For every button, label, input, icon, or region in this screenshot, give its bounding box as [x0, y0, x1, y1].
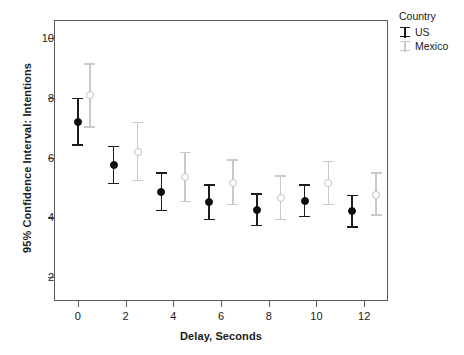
legend: Country US Mexico [399, 10, 463, 53]
x-tick-label: 12 [344, 310, 384, 322]
legend-item-us[interactable]: US [399, 25, 463, 39]
x-tick-label: 8 [249, 310, 289, 322]
x-axis-ticks: 024681012 [0, 0, 464, 355]
legend-label-mexico: Mexico [415, 40, 448, 52]
legend-key-mexico-icon [399, 40, 411, 53]
y-axis-title: 95% Confidence Interval: Intentions [21, 33, 33, 283]
legend-title: Country [399, 10, 463, 22]
x-tick-mark [221, 301, 222, 307]
x-tick-mark [269, 301, 270, 307]
legend-item-mexico[interactable]: Mexico [399, 39, 463, 53]
x-tick-mark [126, 301, 127, 307]
x-tick-label: 2 [106, 310, 146, 322]
x-tick-label: 10 [296, 310, 336, 322]
x-tick-mark [78, 301, 79, 307]
legend-label-us: US [415, 26, 430, 38]
x-tick-mark [316, 301, 317, 307]
x-tick-label: 4 [153, 310, 193, 322]
x-tick-mark [364, 301, 365, 307]
x-axis-title: Delay, Seconds [54, 330, 388, 342]
x-tick-label: 0 [58, 310, 98, 322]
x-tick-label: 6 [201, 310, 241, 322]
chart-container: 246810 024681012 95% Confidence Interval… [0, 0, 464, 355]
legend-key-us-icon [399, 26, 411, 39]
x-tick-mark [173, 301, 174, 307]
